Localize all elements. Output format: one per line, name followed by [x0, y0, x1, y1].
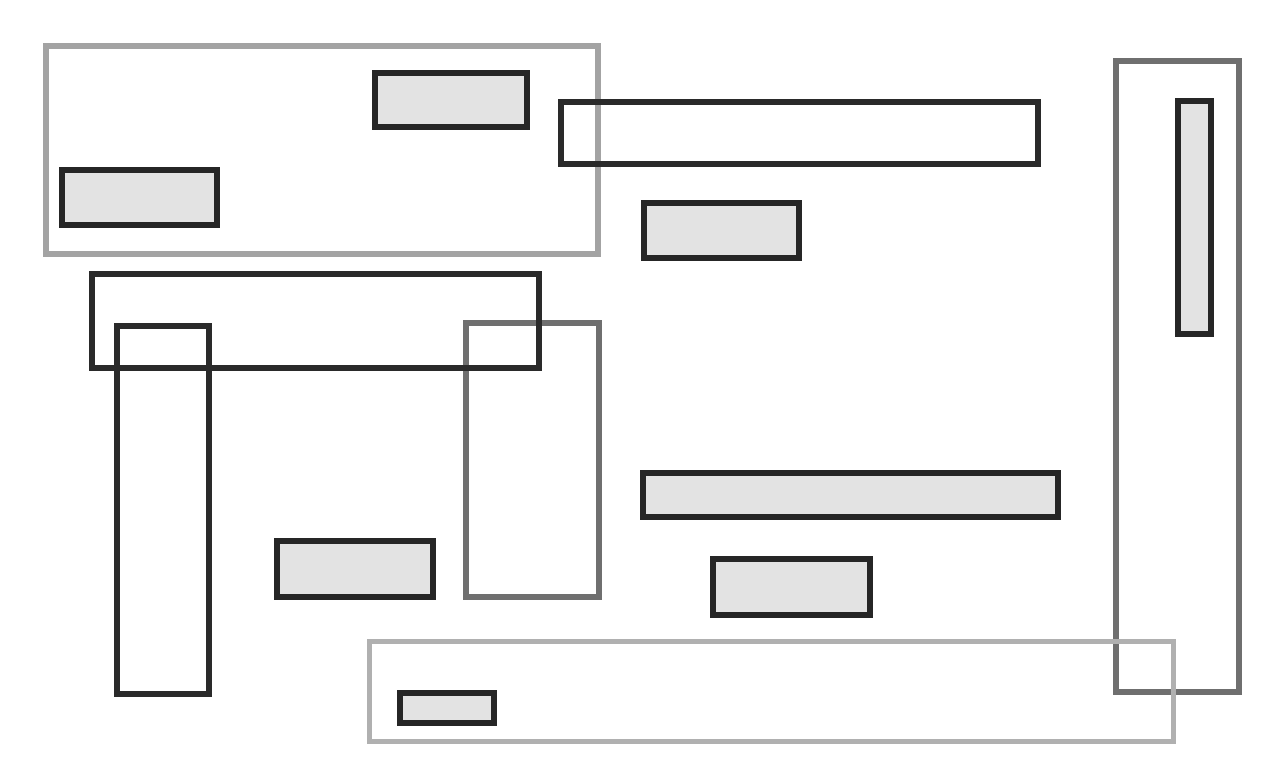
bottom-container: [367, 639, 1176, 744]
filled-g: [710, 556, 873, 618]
filled-e: [274, 538, 436, 600]
left-vertical-outline: [114, 323, 212, 697]
filled-d: [1175, 98, 1214, 337]
filled-a: [372, 70, 530, 130]
filled-b: [59, 167, 220, 228]
filled-f: [640, 470, 1061, 520]
top-horizontal-outline: [558, 99, 1041, 167]
filled-c: [641, 200, 802, 261]
